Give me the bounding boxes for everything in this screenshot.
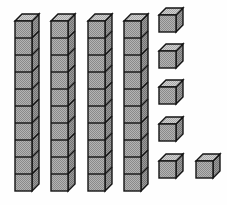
unit-cube-6 xyxy=(196,154,220,178)
blocks-canvas xyxy=(0,0,227,205)
unit-cube-1-front-face xyxy=(159,15,176,32)
unit-cube-5 xyxy=(159,154,183,178)
rod-1 xyxy=(15,14,39,191)
unit-cube-3-front-face xyxy=(159,87,176,104)
unit-cube-3 xyxy=(159,80,183,104)
unit-cube-4-front-face xyxy=(159,124,176,141)
unit-cube-1 xyxy=(159,8,183,32)
unit-cube-2 xyxy=(159,44,183,68)
base-ten-blocks-figure xyxy=(0,0,227,205)
unit-cube-4 xyxy=(159,117,183,141)
rod-3 xyxy=(88,14,112,191)
tens-rods xyxy=(15,14,148,191)
unit-cube-2-front-face xyxy=(159,51,176,68)
unit-cubes xyxy=(159,8,220,178)
blocks-root xyxy=(15,8,220,191)
rod-4 xyxy=(124,14,148,191)
unit-cube-5-front-face xyxy=(159,161,176,178)
blocks-layer xyxy=(0,0,227,205)
rod-2 xyxy=(51,14,75,191)
unit-cube-6-front-face xyxy=(196,161,213,178)
